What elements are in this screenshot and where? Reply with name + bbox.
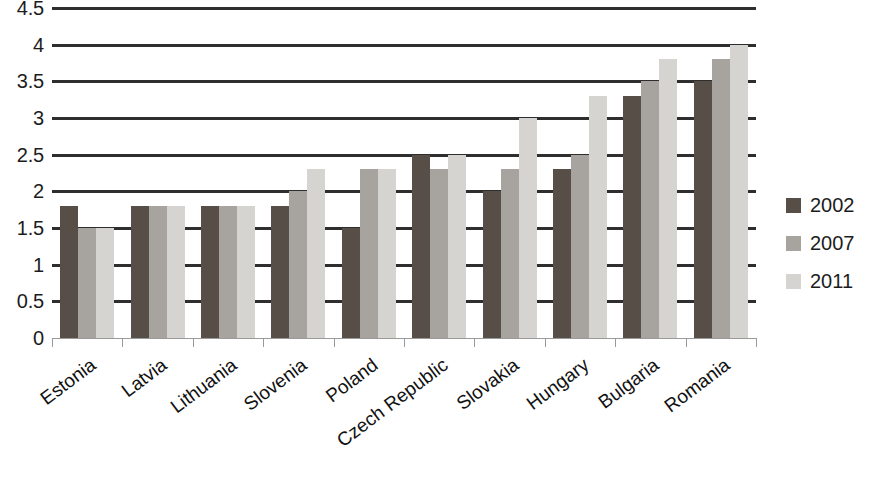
- x-axis-tick: [263, 338, 264, 347]
- legend-item: 2002: [786, 186, 869, 224]
- bar-2011: [730, 45, 748, 338]
- x-axis-category-labels: EstoniaLatviaLithuaniaSloveniaPolandCzec…: [0, 348, 869, 468]
- bar-2007: [641, 81, 659, 338]
- x-axis-tick: [474, 338, 475, 347]
- legend-item: 2011: [786, 262, 869, 300]
- bar-2007: [360, 169, 378, 338]
- bar-2011: [378, 169, 396, 338]
- legend-item: 2007: [786, 224, 869, 262]
- bar-2002: [553, 169, 571, 338]
- bar-group: [201, 8, 255, 338]
- bar-2007: [149, 206, 167, 338]
- bar-group: [694, 8, 748, 338]
- legend-label: 2002: [810, 195, 855, 215]
- y-axis-tick-label: 1.5: [0, 218, 44, 238]
- x-axis-tick: [756, 338, 757, 347]
- bar-series-layer: [52, 8, 756, 338]
- y-axis-tick-label: 3: [0, 108, 44, 128]
- x-axis-tick: [122, 338, 123, 347]
- bar-group: [342, 8, 396, 338]
- legend-label: 2007: [810, 233, 855, 253]
- bar-2007: [712, 59, 730, 338]
- y-axis-tick-label: 2: [0, 181, 44, 201]
- x-axis-tick: [545, 338, 546, 347]
- y-axis-tick-label: 1: [0, 255, 44, 275]
- bar-2011: [589, 96, 607, 338]
- bar-2011: [519, 118, 537, 338]
- y-axis-tick-label: 4.5: [0, 0, 44, 18]
- bar-2002: [694, 81, 712, 338]
- bar-2007: [78, 228, 96, 338]
- x-axis-tick: [193, 338, 194, 347]
- bar-group: [483, 8, 537, 338]
- y-axis-tick-label: 0.5: [0, 291, 44, 311]
- legend-swatch-icon: [786, 274, 801, 289]
- bar-group: [623, 8, 677, 338]
- bar-2007: [501, 169, 519, 338]
- bar-2011: [307, 169, 325, 338]
- bar-2007: [430, 169, 448, 338]
- bar-group: [412, 8, 466, 338]
- bar-2002: [271, 206, 289, 338]
- y-axis-tick-label: 0: [0, 328, 44, 348]
- bar-2011: [96, 228, 114, 338]
- legend-label: 2011: [810, 271, 853, 291]
- bar-2002: [201, 206, 219, 338]
- y-axis-tick-label: 3.5: [0, 71, 44, 91]
- bar-2007: [571, 155, 589, 338]
- bar-2002: [131, 206, 149, 338]
- bar-2011: [448, 155, 466, 338]
- bar-group: [60, 8, 114, 338]
- bar-group: [553, 8, 607, 338]
- legend-swatch-icon: [786, 236, 801, 251]
- bar-2007: [219, 206, 237, 338]
- chart-legend: 200220072011: [786, 186, 869, 300]
- bar-2002: [483, 191, 501, 338]
- bar-2002: [623, 96, 641, 338]
- bar-chart: 4.543.532.521.510.50 EstoniaLatviaLithua…: [0, 0, 869, 481]
- bar-2011: [659, 59, 677, 338]
- bar-group: [271, 8, 325, 338]
- bar-2007: [289, 191, 307, 338]
- bar-2002: [412, 155, 430, 338]
- bar-2011: [167, 206, 185, 338]
- x-axis-tick: [404, 338, 405, 347]
- y-axis-tick-labels: 4.543.532.521.510.50: [0, 0, 44, 352]
- x-axis-tick: [615, 338, 616, 347]
- bar-2002: [342, 228, 360, 338]
- bar-2002: [60, 206, 78, 338]
- legend-swatch-icon: [786, 198, 801, 213]
- bar-2011: [237, 206, 255, 338]
- x-axis-tick: [686, 338, 687, 347]
- y-axis-tick-label: 2.5: [0, 145, 44, 165]
- x-axis-tick: [52, 338, 53, 347]
- x-axis-tick: [334, 338, 335, 347]
- bar-group: [131, 8, 185, 338]
- y-axis-tick-label: 4: [0, 35, 44, 55]
